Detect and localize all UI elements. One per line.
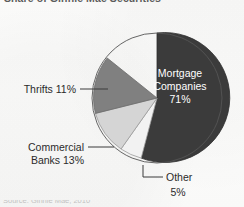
figure-container: Share of Ginnie Mae Securities Mortgage …	[0, 0, 244, 207]
pie-label-mortgage-companies-line1: Mortgage	[158, 67, 203, 79]
pie-label-commercial-banks-line1: Commercial	[28, 141, 84, 153]
figure-footnote-clipped: Source: Ginnie Mae, 2010	[0, 200, 244, 207]
pie-chart: Mortgage Companies 71% Thrifts 11% Comme…	[0, 0, 244, 207]
pie-label-mortgage-companies-line2: Companies	[153, 80, 206, 92]
figure-footnote: Source: Ginnie Mae, 2010	[3, 200, 90, 205]
pie-label-other-line1: Other	[166, 171, 193, 183]
pie-label-other-value: 5%	[170, 186, 185, 198]
pie-label-commercial-banks-line2: Banks 13%	[31, 154, 84, 166]
leader-line-other	[143, 165, 163, 177]
pie-label-thrifts: Thrifts 11%	[24, 83, 76, 95]
pie-label-mortgage-companies-value: 71%	[169, 93, 190, 105]
